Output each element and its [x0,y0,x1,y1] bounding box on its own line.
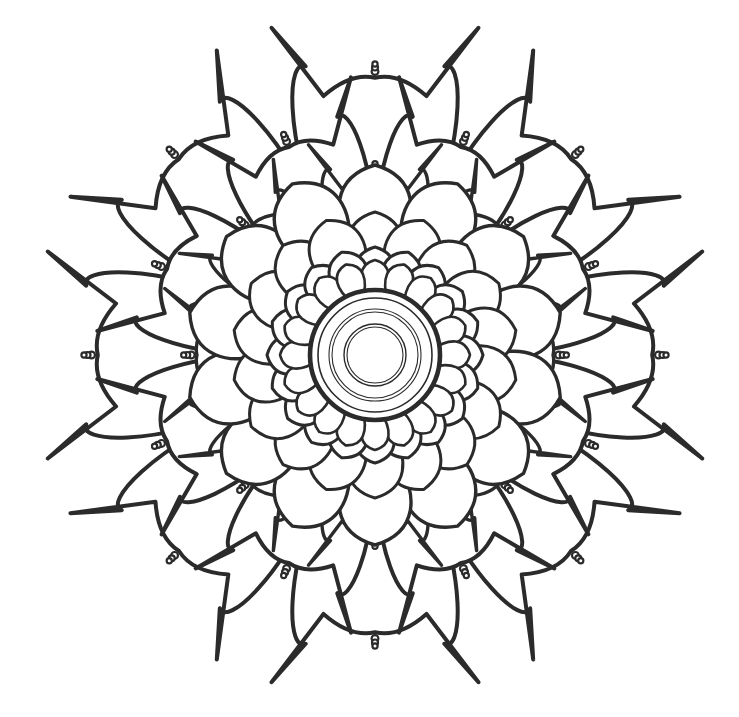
finial-bead [237,488,242,493]
finial-bead [663,352,668,357]
finial-bead [464,132,469,137]
finial-bead [152,261,157,266]
finial-bead [167,558,172,563]
finial-bead [372,61,377,66]
finial-bead [281,573,286,578]
mandala-artwork [0,0,739,717]
finial-bead [593,444,598,449]
finial-bead [578,558,583,563]
finial-bead [152,444,157,449]
finial-bead [81,352,86,357]
finial-bead [564,352,569,357]
finial-bead [593,261,598,266]
mandala-canvas [0,0,739,717]
finial-bead [464,573,469,578]
finial-bead [181,352,186,357]
finial-bead [281,132,286,137]
center-medallion [310,290,440,420]
finial-bead [372,643,377,648]
finial-bead [167,147,172,152]
finial-bead [508,217,513,222]
finial-bead [508,488,513,493]
finial-bead [237,217,242,222]
finial-bead [578,147,583,152]
